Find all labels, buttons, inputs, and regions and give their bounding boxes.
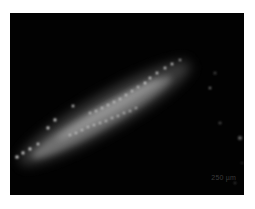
specimen-graphic [10,13,244,195]
specimen-body [11,48,199,177]
scale-bar-label: 250 µm [211,174,236,181]
background-specks [209,72,243,185]
microscopy-image: 250 µm [10,13,244,195]
